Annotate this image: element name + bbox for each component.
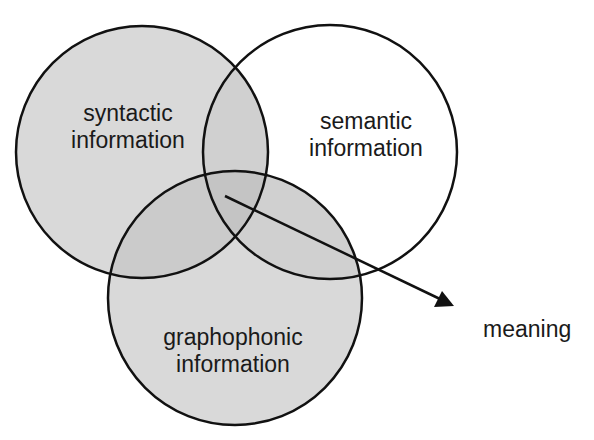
graphophonic-line1: graphophonic xyxy=(153,324,313,351)
syntactic-label: syntactic information xyxy=(58,100,198,154)
syntactic-line2: information xyxy=(58,127,198,154)
graphophonic-line2: information xyxy=(153,351,313,378)
semantic-line1: semantic xyxy=(296,108,436,135)
semantic-line2: information xyxy=(296,135,436,162)
arrowhead-icon xyxy=(434,291,454,307)
meaning-label: meaning xyxy=(483,316,571,343)
syntactic-line1: syntactic xyxy=(58,100,198,127)
semantic-label: semantic information xyxy=(296,108,436,162)
graphophonic-label: graphophonic information xyxy=(153,324,313,378)
